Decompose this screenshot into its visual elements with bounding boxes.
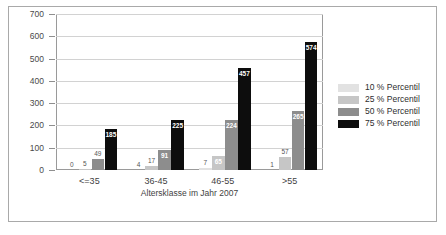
bar-group: 41791225 xyxy=(123,14,190,170)
bar-value-label: 91 xyxy=(158,152,171,159)
y-tick-mark xyxy=(49,81,55,82)
y-tick-label: 700 xyxy=(10,10,44,19)
legend-label: 75 % Percentil xyxy=(365,119,420,128)
bar[interactable]: 49 xyxy=(92,159,105,170)
y-tick-label: 500 xyxy=(10,55,44,64)
bar-value-label: 225 xyxy=(171,122,184,129)
plot-area: 0100200300400500600700 05491854179122576… xyxy=(56,14,323,170)
legend-swatch xyxy=(338,120,359,128)
y-tick-mark xyxy=(49,148,55,149)
x-tick-label: <=35 xyxy=(54,176,124,186)
legend-swatch xyxy=(338,108,359,116)
bar-value-label: 65 xyxy=(212,158,225,165)
bar[interactable]: 265 xyxy=(292,111,305,170)
bar-value-label: 265 xyxy=(292,113,305,120)
y-tick-mark xyxy=(49,103,55,104)
x-axis-title: Altersklasse im Jahr 2007 xyxy=(56,188,323,198)
y-tick-label: 100 xyxy=(10,144,44,153)
bar[interactable]: 224 xyxy=(225,120,238,170)
bar-group: 157265574 xyxy=(256,14,323,170)
bar-value-label: 185 xyxy=(105,131,118,138)
bar-value-label: 457 xyxy=(238,70,251,77)
bar-group: 0549185 xyxy=(56,14,123,170)
legend-swatch xyxy=(338,84,359,92)
chart-figure: in Tausend Euro 0100200300400500600700 0… xyxy=(0,0,446,235)
legend-label: 50 % Percentil xyxy=(365,107,420,116)
bar[interactable]: 17 xyxy=(145,166,158,170)
legend-item[interactable]: 10 % Percentil xyxy=(338,82,434,93)
bar[interactable]: 57 xyxy=(279,157,292,170)
y-tick-mark xyxy=(49,170,55,171)
y-tick-mark xyxy=(49,14,55,15)
bar[interactable]: 457 xyxy=(238,68,251,170)
x-tick-label: >55 xyxy=(255,176,325,186)
bar[interactable]: 65 xyxy=(212,156,225,170)
bar-group: 765224457 xyxy=(190,14,257,170)
y-tick-label: 300 xyxy=(10,99,44,108)
y-tick-mark xyxy=(49,125,55,126)
y-tick-label: 0 xyxy=(10,166,44,175)
legend-label: 25 % Percentil xyxy=(365,95,420,104)
bar[interactable]: 574 xyxy=(305,42,318,170)
y-tick-label: 600 xyxy=(10,32,44,41)
y-tick-label: 200 xyxy=(10,121,44,130)
bar[interactable]: 225 xyxy=(171,120,184,170)
y-tick-mark xyxy=(49,59,55,60)
x-tick-label: 36-45 xyxy=(121,176,191,186)
legend-item[interactable]: 75 % Percentil xyxy=(338,118,434,129)
bar-value-label: 224 xyxy=(225,122,238,129)
bar[interactable]: 185 xyxy=(105,129,118,170)
bar[interactable]: 5 xyxy=(79,169,92,170)
x-tick-label: 46-55 xyxy=(188,176,258,186)
legend-swatch xyxy=(338,96,359,104)
y-tick-mark xyxy=(49,36,55,37)
bar[interactable]: 91 xyxy=(158,150,171,170)
legend-item[interactable]: 50 % Percentil xyxy=(338,106,434,117)
chart-legend: 10 % Percentil25 % Percentil50 % Percent… xyxy=(338,82,434,130)
y-tick-label: 400 xyxy=(10,77,44,86)
legend-label: 10 % Percentil xyxy=(365,83,420,92)
bar-value-label: 574 xyxy=(305,44,318,51)
bar[interactable]: 7 xyxy=(199,168,212,170)
legend-item[interactable]: 25 % Percentil xyxy=(338,94,434,105)
